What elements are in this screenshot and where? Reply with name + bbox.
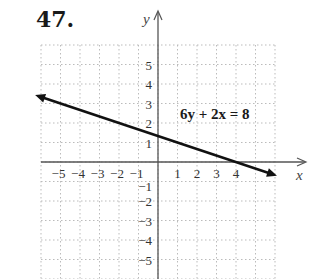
svg-text:−4: −4: [71, 166, 85, 181]
x-axis-label: x: [295, 167, 303, 183]
coordinate-graph: −5−4−3−2−1123454321−1−2−3−4−5 x y 6y + 2…: [0, 0, 326, 279]
y-axis-label: y: [141, 11, 150, 27]
svg-text:2: 2: [194, 166, 201, 181]
svg-text:−5: −5: [52, 166, 66, 181]
svg-text:−3: −3: [138, 214, 152, 229]
svg-text:−2: −2: [110, 166, 124, 181]
svg-text:−5: −5: [138, 253, 152, 268]
svg-text:3: 3: [213, 166, 220, 181]
svg-text:1: 1: [146, 136, 153, 151]
svg-text:−4: −4: [138, 233, 152, 248]
svg-text:−1: −1: [138, 179, 152, 194]
svg-text:−3: −3: [91, 166, 105, 181]
svg-text:1: 1: [174, 166, 181, 181]
axes: [41, 11, 306, 279]
svg-text:4: 4: [233, 166, 240, 181]
svg-text:5: 5: [146, 58, 153, 73]
svg-text:−2: −2: [138, 194, 152, 209]
svg-text:2: 2: [146, 116, 153, 131]
svg-text:3: 3: [146, 97, 153, 112]
equation-label: 6y + 2x = 8: [180, 106, 250, 122]
svg-text:4: 4: [146, 77, 153, 92]
